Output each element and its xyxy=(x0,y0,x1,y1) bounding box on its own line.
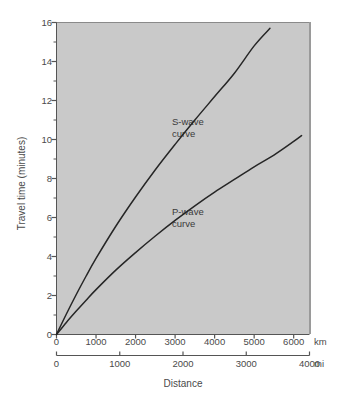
km-tick-label-4000: 4000 xyxy=(193,337,237,347)
seismic-travel-time-chart: 0246810121416 Travel time (minutes) 0100… xyxy=(0,0,344,406)
s-wave-curve-label: S-wave curve xyxy=(172,116,204,139)
y-axis-title: Travel time (minutes) xyxy=(16,109,27,259)
y-tick-label-2: 2 xyxy=(30,291,52,301)
km-tick-label-5000: 5000 xyxy=(232,337,276,347)
y-tick-label-14: 14 xyxy=(30,57,52,67)
km-tick-label-0: 0 xyxy=(35,337,79,347)
y-tick-label-16: 16 xyxy=(30,18,52,28)
x-axis-km-unit-label: km xyxy=(314,337,327,347)
x-axis-mi-unit-label: mi xyxy=(314,359,324,369)
x-axis-title: Distance xyxy=(56,378,310,389)
s-wave-label-line2: curve xyxy=(172,128,204,140)
mi-tick-label-0: 0 xyxy=(35,359,79,369)
y-tick-label-6: 6 xyxy=(30,213,52,223)
mi-tick-label-4000: 4000 xyxy=(288,359,332,369)
mi-tick-label-1000: 1000 xyxy=(98,359,142,369)
plot-area xyxy=(56,22,310,334)
km-tick-label-6000: 6000 xyxy=(272,337,316,347)
y-tick-label-10: 10 xyxy=(30,135,52,145)
plot-right-border xyxy=(309,22,311,334)
p-wave-label-line2: curve xyxy=(172,218,204,230)
x-axis-mi xyxy=(57,352,310,356)
s-wave-label-line1: S-wave xyxy=(172,116,204,128)
mi-tick-label-3000: 3000 xyxy=(224,359,268,369)
km-tick-label-1000: 1000 xyxy=(74,337,118,347)
y-tick-label-8: 8 xyxy=(30,174,52,184)
p-wave-label-line1: P-wave xyxy=(172,206,204,218)
y-tick-label-12: 12 xyxy=(30,96,52,106)
km-tick-label-3000: 3000 xyxy=(153,337,197,347)
y-tick-label-4: 4 xyxy=(30,252,52,262)
mi-tick-label-2000: 2000 xyxy=(161,359,205,369)
p-wave-curve-label: P-wave curve xyxy=(172,206,204,229)
km-tick-label-2000: 2000 xyxy=(114,337,158,347)
